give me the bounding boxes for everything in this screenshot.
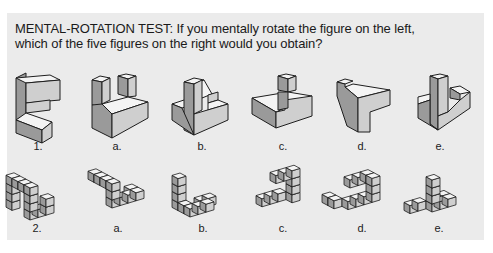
label-option-b-2: b. <box>198 222 207 234</box>
figure-2c <box>256 165 300 207</box>
label-option-d: d. <box>357 140 366 152</box>
figure-2b <box>172 173 216 217</box>
label-option-c-2: c. <box>279 222 288 234</box>
figure-2a <box>88 169 144 208</box>
label-option-b: b. <box>197 140 206 152</box>
figure-2-reference <box>6 173 54 220</box>
label-option-a: a. <box>112 140 121 152</box>
figure-2e <box>404 174 456 213</box>
label-figure-2: 2. <box>32 222 41 234</box>
label-option-e-2: e. <box>434 222 443 234</box>
label-figure-1: 1. <box>33 140 42 152</box>
cube-figures-canvas <box>0 0 493 253</box>
label-option-e: e. <box>435 140 444 152</box>
label-option-a-2: a. <box>113 222 122 234</box>
label-option-c: c. <box>279 140 288 152</box>
figure-2d <box>322 170 380 210</box>
label-option-d-2: d. <box>357 222 366 234</box>
